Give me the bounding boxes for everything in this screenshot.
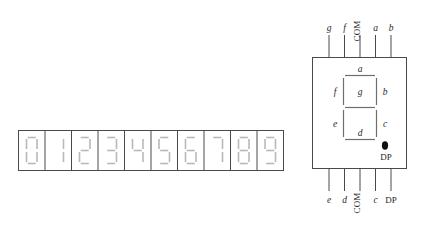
- decimal-point-dot: [382, 141, 388, 149]
- top-pin-label-3: COM: [352, 20, 362, 41]
- segment-label-a: a: [358, 64, 363, 74]
- segment-label-b: b: [383, 87, 388, 97]
- decimal-point-label: DP: [380, 152, 392, 162]
- top-pin-label-4: a: [373, 23, 378, 33]
- bottom-pin-label-5: DP: [385, 195, 397, 205]
- bottom-pin-label-2: d: [342, 195, 347, 205]
- bottom-pin-label-3: COM: [352, 192, 362, 213]
- segment-label-e: e: [333, 119, 337, 129]
- top-pin-label-5: b: [389, 23, 394, 33]
- seven-segment-figure: a f b g e c d DP gfCOMab edCOMcDP: [0, 0, 421, 235]
- figure-canvas: a f b g e c d DP gfCOMab edCOMcDP: [0, 0, 421, 235]
- bottom-pin-label-1: e: [327, 195, 331, 205]
- top-pin-label-1: g: [327, 23, 332, 33]
- segment-label-d: d: [358, 128, 363, 138]
- segment-label-g: g: [358, 87, 363, 97]
